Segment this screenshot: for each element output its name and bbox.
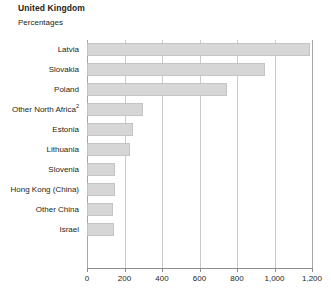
bar-row xyxy=(87,60,312,80)
bar-row xyxy=(87,220,312,240)
bar-row xyxy=(87,40,312,60)
x-axis-tick-mark xyxy=(200,268,201,272)
category-label: Estonia xyxy=(52,120,79,140)
x-axis-tick-mark xyxy=(312,268,313,272)
bar-row xyxy=(87,160,312,180)
x-axis-tick-label: 0 xyxy=(85,274,89,283)
category-label: Poland xyxy=(54,80,79,100)
x-axis-tick-mark xyxy=(162,268,163,272)
x-axis-tick-label: 200 xyxy=(118,274,131,283)
category-label: Hong Kong (China) xyxy=(11,180,79,200)
category-label: Other China xyxy=(36,200,79,220)
bar xyxy=(87,63,265,76)
bar xyxy=(87,183,115,196)
x-axis-tick-label: 800 xyxy=(230,274,243,283)
category-label-footnote: 2 xyxy=(76,103,79,109)
bar xyxy=(87,43,310,56)
chart-subtitle: Percentages xyxy=(18,18,63,27)
category-label: Slovenia xyxy=(48,160,79,180)
bar-row xyxy=(87,140,312,160)
x-axis-tick-label: 1,200 xyxy=(302,274,322,283)
x-axis-tick-label: 1,000 xyxy=(264,274,284,283)
bar xyxy=(87,203,113,216)
bar xyxy=(87,123,133,136)
category-label: Latvia xyxy=(58,40,79,60)
plot-area xyxy=(87,40,312,268)
bar-chart-figure: United Kingdom Percentages LatviaSlovaki… xyxy=(0,0,331,295)
bar-row xyxy=(87,120,312,140)
bar xyxy=(87,103,143,116)
category-label: Other North Africa2 xyxy=(12,100,79,120)
x-axis-tick-mark xyxy=(237,268,238,272)
x-axis-tick-label: 400 xyxy=(155,274,168,283)
x-axis-tick-mark xyxy=(125,268,126,272)
category-label: Israel xyxy=(59,220,79,240)
x-axis-tick-label: 600 xyxy=(193,274,206,283)
bar xyxy=(87,163,115,176)
bar-row xyxy=(87,200,312,220)
bar-row xyxy=(87,180,312,200)
gridline xyxy=(312,40,313,268)
bar xyxy=(87,83,227,96)
bar xyxy=(87,143,130,156)
x-axis-tick-mark xyxy=(275,268,276,272)
bar-row xyxy=(87,80,312,100)
bar-row xyxy=(87,100,312,120)
category-label: Slovakia xyxy=(49,60,79,80)
bar xyxy=(87,223,114,236)
chart-title: United Kingdom xyxy=(18,3,85,13)
x-axis-tick-mark xyxy=(87,268,88,272)
category-label: Lithuania xyxy=(47,140,79,160)
